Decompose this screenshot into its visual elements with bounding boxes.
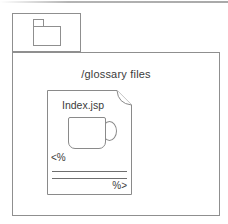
folder-label: /glossary files [12, 68, 220, 80]
mug-body [68, 117, 106, 149]
scriptlet-close-label: %> [52, 180, 127, 191]
file-name-label: Index.jsp [47, 99, 119, 111]
page-top-edge-line [0, 1, 228, 3]
jsp-document-icon: Index.jsp <% %> [47, 90, 132, 195]
scriptlet-open-label: <% [51, 152, 66, 163]
code-line [52, 178, 127, 179]
code-line [52, 171, 127, 172]
folder-icon-body [33, 26, 61, 46]
diagram-canvas: /glossary files Index.jsp <% %> [0, 0, 228, 224]
